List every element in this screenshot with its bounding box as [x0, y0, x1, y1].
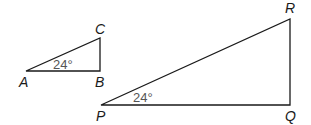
similar-triangles-diagram: A B C 24° P Q R 24°: [0, 0, 311, 125]
vertex-label-c: C: [95, 21, 106, 37]
vertex-label-p: P: [96, 108, 106, 124]
vertex-label-b: B: [95, 74, 104, 90]
triangle-abc: A B C 24°: [18, 21, 106, 90]
angle-label-a: 24°: [53, 57, 73, 72]
vertex-label-r: R: [285, 0, 295, 16]
triangle-pqr-outline: [101, 19, 290, 105]
vertex-label-a: A: [18, 74, 28, 90]
vertex-label-q: Q: [285, 108, 296, 124]
angle-label-p: 24°: [133, 90, 153, 105]
triangle-pqr: P Q R 24°: [96, 0, 296, 124]
